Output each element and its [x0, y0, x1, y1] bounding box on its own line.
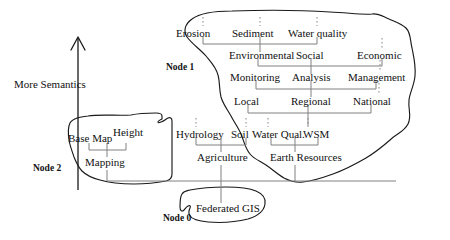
term-management: Management: [348, 72, 405, 83]
diagram-canvas: More Semantics Node 1 Node 2 Node 0 Eros…: [0, 0, 450, 240]
node1-label: Node 1: [166, 62, 194, 73]
dotted-stubs-row-erosion: [203, 17, 317, 26]
term-federated-gis: Federated GIS: [196, 203, 260, 214]
node2-label: Node 2: [33, 163, 61, 174]
term-base-map: Base Map: [68, 133, 112, 144]
term-sediment: Sediment: [232, 28, 274, 39]
term-local: Local: [234, 96, 259, 107]
more-semantics-label: More Semantics: [14, 79, 86, 90]
term-environmental: Environmental: [229, 50, 294, 61]
term-monitoring: Monitoring: [230, 72, 280, 83]
term-wsm: WSM: [303, 129, 329, 140]
more-semantics-axis-arrow: [71, 37, 85, 190]
term-earth-resources: Earth Resources: [270, 152, 342, 163]
term-analysis: Analysis: [292, 72, 331, 83]
term-height: Height: [113, 127, 143, 138]
term-soil: Soil: [231, 129, 249, 140]
term-water-qual: Water Qual.: [252, 129, 305, 140]
node0-label: Node 0: [163, 213, 191, 224]
dotted-stubs-hydrology-soil: [196, 118, 246, 127]
term-mapping: Mapping: [85, 157, 125, 168]
node2-boundary: [68, 113, 172, 184]
term-social: Social: [296, 50, 324, 61]
term-erosion: Erosion: [176, 28, 210, 39]
bracket-local-to-earth-resources: [248, 105, 371, 126]
term-economic: Economic: [357, 50, 402, 61]
bracket-waterqual-wsm-to-earth-resources: [271, 138, 318, 152]
term-national: National: [353, 96, 391, 107]
term-regional: Regional: [291, 96, 331, 107]
term-hydrology: Hydrology: [176, 129, 224, 140]
dotted-stubs-water-qual-wsm: [268, 118, 308, 127]
term-agriculture: Agriculture: [197, 152, 248, 163]
term-water-quality: Water quality: [288, 28, 347, 39]
bracket-basemap-height-to-mapping: [89, 143, 126, 157]
bracket-hydrology-soil-to-agriculture: [196, 138, 246, 152]
